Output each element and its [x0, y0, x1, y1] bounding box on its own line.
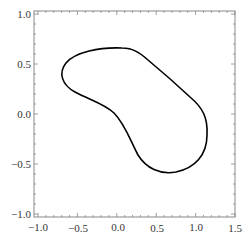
- x-tick-label: 0.0: [111, 221, 125, 233]
- y-tick-label: 1.0: [17, 8, 31, 20]
- y-tick-label: −1.0: [11, 208, 31, 220]
- axis-ticks: [34, 11, 235, 217]
- x-tick-label: −0.5: [68, 222, 88, 234]
- x-tick-label: 1.5: [228, 222, 242, 234]
- y-tick-label: 0.5: [17, 58, 31, 70]
- plot-frame: [34, 11, 235, 217]
- y-tick-label: −0.5: [11, 158, 31, 170]
- x-tick-label: 1.0: [189, 221, 203, 233]
- x-tick-label: −1.0: [28, 221, 48, 233]
- closed-curve: [62, 48, 207, 173]
- chart: −1.0 −0.5 0.0 0.5 1.0 1.5 1.0 0.5 0.0 −0…: [0, 0, 245, 245]
- y-tick-label: 0.0: [17, 108, 31, 120]
- x-tick-label: 0.5: [150, 222, 164, 234]
